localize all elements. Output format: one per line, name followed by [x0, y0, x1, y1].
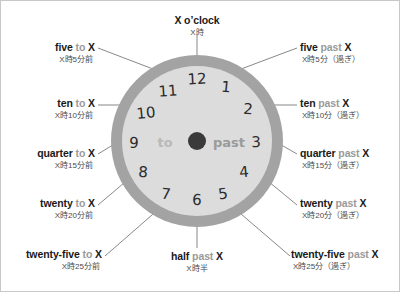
numeral-9: 9: [129, 134, 139, 152]
numeral-10: 10: [136, 103, 157, 123]
label-twentyfive-past-jp: X時25分（過ぎ）: [291, 261, 379, 272]
clock-center-hub: [188, 132, 206, 150]
label-ten-to-jp: X時10分前: [55, 110, 95, 121]
numeral-3: 3: [251, 133, 261, 151]
numeral-7: 7: [160, 185, 171, 204]
clock-infographic: 12 1 2 3 4 5 6 7 8 9 10 11 to past X o’c…: [0, 0, 400, 292]
label-ten-to: ten to X X時10分前: [55, 97, 95, 121]
label-quarter-past: quarter past X X時15分（過ぎ）: [300, 147, 369, 171]
label-five-past-en: five past X: [300, 41, 360, 53]
label-twenty-past-en: twenty past X: [300, 197, 366, 209]
numeral-11: 11: [158, 81, 178, 100]
label-twentyfive-past: twenty-five past X X時25分（過ぎ）: [291, 248, 379, 272]
label-five-to-en: five to X: [55, 41, 95, 53]
label-five-to-jp: X時5分前: [55, 54, 95, 65]
label-ten-past-jp: X時10分（過ぎ）: [300, 110, 364, 121]
label-o-clock: X o’clock X時: [147, 14, 247, 38]
label-twentyfive-to-en: twenty-five to X: [26, 248, 102, 260]
label-quarter-past-en: quarter past X: [300, 147, 369, 159]
label-five-past-jp: X時5分（過ぎ）: [300, 54, 360, 65]
label-twentyfive-to-jp: X時25分前: [26, 261, 102, 272]
numeral-4: 4: [238, 163, 249, 182]
label-quarter-to-en: quarter to X: [37, 147, 95, 159]
label-twenty-to-en: twenty to X: [40, 197, 95, 209]
label-twenty-past-jp: X時20分（過ぎ）: [300, 210, 366, 221]
label-twenty-to-jp: X時20分前: [40, 210, 95, 221]
label-half-past-en: half past X: [147, 250, 247, 262]
center-word-past: past: [213, 135, 245, 150]
label-o-clock-en: X o’clock: [147, 14, 247, 26]
label-ten-past: ten past X X時10分（過ぎ）: [300, 97, 364, 121]
numeral-6: 6: [192, 191, 202, 209]
numeral-12: 12: [187, 70, 207, 89]
label-five-to: five to X X時5分前: [55, 41, 95, 65]
label-half-past-jp: X時半: [147, 263, 247, 274]
numeral-2: 2: [243, 100, 254, 119]
numeral-1: 1: [220, 78, 231, 97]
label-five-past: five past X X時5分（過ぎ）: [300, 41, 360, 65]
label-ten-to-en: ten to X: [55, 97, 95, 109]
numeral-8: 8: [138, 163, 149, 182]
label-quarter-to: quarter to X X時15分前: [37, 147, 95, 171]
label-twentyfive-past-en: twenty-five past X: [291, 248, 379, 260]
label-twenty-past: twenty past X X時20分（過ぎ）: [300, 197, 366, 221]
center-word-to: to: [157, 135, 172, 150]
label-twenty-to: twenty to X X時20分前: [40, 197, 95, 221]
label-half-past: half past X X時半: [147, 250, 247, 274]
label-o-clock-jp: X時: [147, 27, 247, 38]
label-quarter-past-jp: X時15分（過ぎ）: [300, 160, 369, 171]
label-twentyfive-to: twenty-five to X X時25分前: [26, 248, 102, 272]
label-quarter-to-jp: X時15分前: [37, 160, 95, 171]
label-ten-past-en: ten past X: [300, 97, 364, 109]
